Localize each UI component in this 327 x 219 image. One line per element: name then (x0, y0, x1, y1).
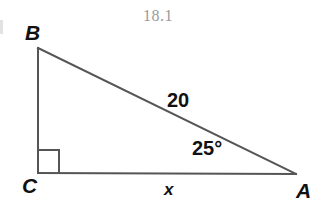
figure-number: 18.1 (143, 8, 173, 24)
geometry-figure: 18.1 B C A 20 25° x (0, 0, 327, 219)
angle-measure-label-a: 25° (192, 138, 222, 158)
side-ca-line (38, 173, 296, 174)
right-angle-marker-icon (38, 150, 59, 172)
side-length-label-base: x (164, 181, 173, 198)
vertex-label-c: C (22, 175, 37, 196)
vertex-label-b: B (25, 22, 40, 43)
side-ba-line (38, 48, 296, 174)
side-length-label-hypotenuse: 20 (167, 90, 189, 110)
vertex-label-a: A (296, 180, 311, 201)
